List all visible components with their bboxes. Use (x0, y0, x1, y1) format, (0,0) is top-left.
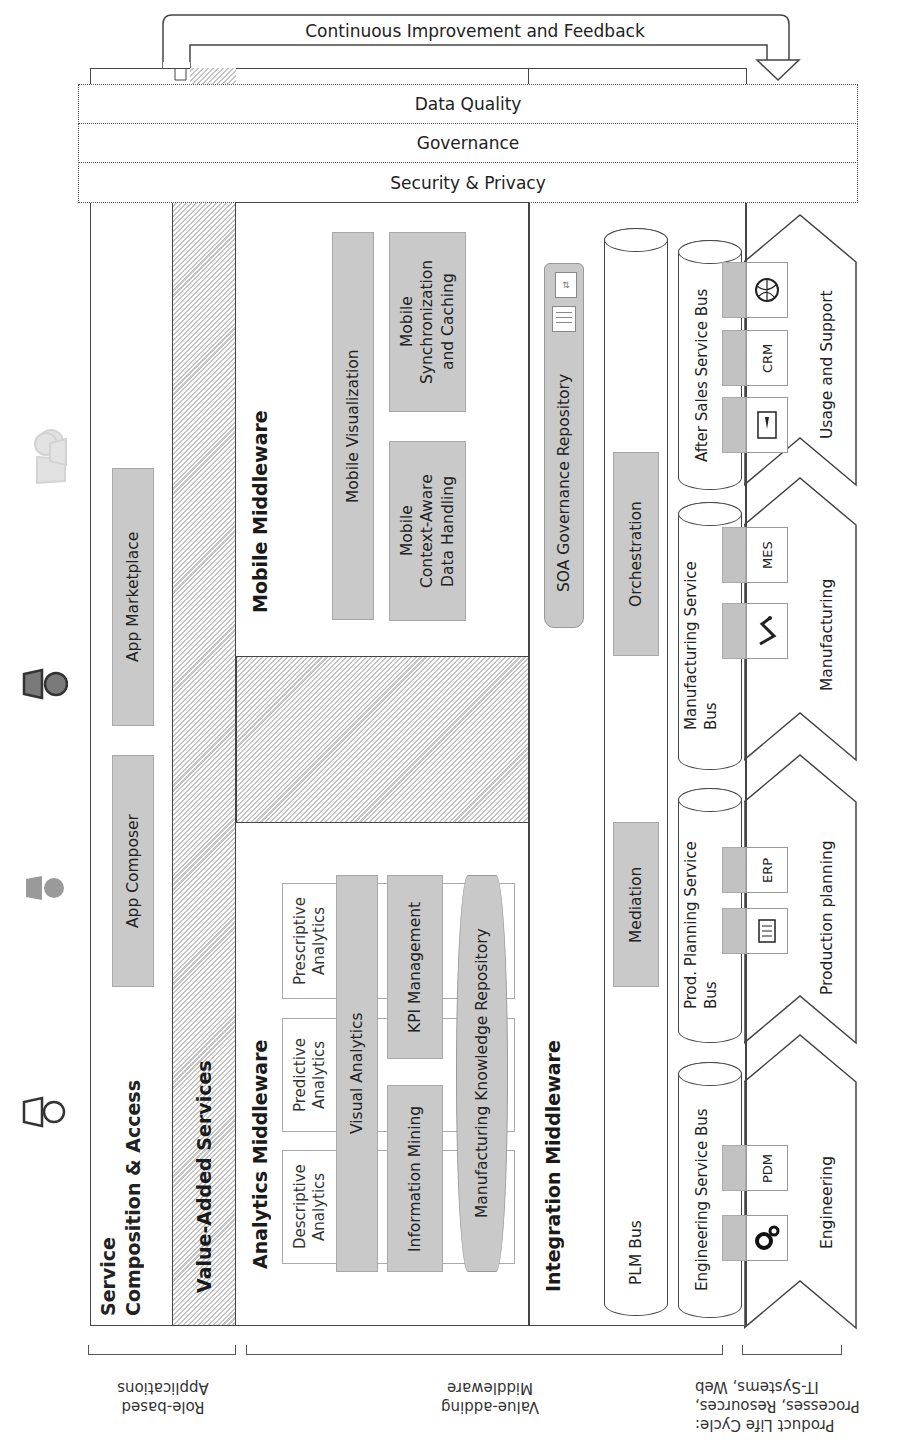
mobile-context-aware-box[interactable]: MobileContext-AwareData Handling (389, 441, 466, 621)
line: Data Handling (439, 476, 457, 587)
connector-arrows (722, 397, 746, 453)
pdm-system-box[interactable]: PDM (746, 1145, 788, 1191)
bus-cap (678, 502, 742, 526)
knowledge-repository-cylinder[interactable]: Manufacturing Knowledge Repository (456, 875, 508, 1272)
label-role-based-applications: Role-basedApplications (88, 1378, 238, 1416)
value-added-hatch-top (190, 68, 236, 84)
user-role-medium-icon (22, 866, 66, 910)
kpi-management-box[interactable]: KPI Management (387, 875, 443, 1059)
line: and Caching (439, 274, 457, 371)
line: Mobile (398, 297, 416, 348)
line: Bus (702, 981, 720, 1009)
line: Processes, Resources, (695, 1398, 860, 1416)
phase-production-planning[interactable]: Production planning (810, 805, 844, 1030)
divider (528, 203, 530, 1326)
soa-governance-repository-label: SOA Governance Repository (544, 340, 584, 625)
brace-value-adding (246, 1345, 723, 1355)
crm-system-box[interactable]: CRM (746, 330, 788, 386)
line: Bus (702, 703, 720, 731)
service-composition-title: Service Composition & Access (96, 1080, 166, 1320)
globe-icon[interactable] (746, 262, 788, 318)
line: Mobile (398, 506, 416, 557)
line: Predictive (291, 1038, 309, 1112)
app-marketplace-box[interactable]: App Marketplace (112, 468, 154, 726)
connector-arrows (722, 262, 746, 318)
title-line: Service (97, 1237, 119, 1316)
value-added-hatch-gap (235, 656, 528, 822)
line: Prod. Planning Service (682, 841, 700, 1009)
divider (528, 68, 529, 84)
feedback-loop-label: Continuous Improvement and Feedback (190, 16, 760, 45)
phase-usage-support[interactable]: Usage and Support (810, 265, 844, 465)
line: Descriptive (291, 1165, 309, 1250)
plm-bus-cap (604, 228, 668, 252)
mobile-visualization-box[interactable]: Mobile Visualization (332, 232, 374, 620)
documents-icon (552, 306, 576, 332)
robot-arm-icon[interactable] (746, 603, 788, 659)
label-product-life-cycle: Product Life Cycle:Processes, Resources,… (695, 1378, 865, 1434)
checklist-icon[interactable] (746, 908, 788, 954)
bus-cap (678, 240, 742, 264)
title-line: Composition & Access (122, 1080, 144, 1316)
mes-system-box[interactable]: MES (746, 527, 788, 583)
manual-icon[interactable] (746, 397, 788, 453)
prod-planning-service-bus-label: Prod. Planning ServiceBus (682, 815, 726, 1035)
mediation-box[interactable]: Mediation (613, 822, 659, 987)
after-sales-service-bus-label: After Sales Service Bus (684, 266, 720, 484)
line: Analytics (310, 907, 328, 975)
label-value-adding-middleware: Value-addingMiddleware (400, 1378, 580, 1416)
line: IT-Systems, Web (695, 1379, 819, 1397)
user-role-outline-icon (20, 1088, 68, 1136)
user-role-light-icon (24, 430, 68, 474)
engineering-service-bus-label: Engineering Service Bus (684, 1090, 720, 1310)
line: Product Life Cycle: (695, 1416, 835, 1434)
line: Middleware (447, 1379, 533, 1397)
line: Context-Aware (418, 474, 436, 588)
line: Analytics (310, 1173, 328, 1241)
mobile-middleware-title: Mobile Middleware (240, 410, 280, 650)
line: Analytics (310, 1041, 328, 1109)
descriptive-analytics-label: DescriptiveAnalytics (282, 1150, 338, 1264)
brace-role-based (88, 1345, 236, 1355)
connector-arrows (722, 1145, 746, 1191)
erp-system-box[interactable]: ERP (746, 847, 788, 893)
manufacturing-service-bus-label: Manufacturing ServiceBus (682, 530, 726, 762)
analytics-middleware-title: Analytics Middleware (240, 1040, 280, 1320)
app-composer-box[interactable]: App Composer (112, 755, 154, 987)
plm-bus-cylinder[interactable] (604, 228, 668, 1316)
visual-analytics-box[interactable]: Visual Analytics (336, 875, 378, 1272)
band-data-quality: Data Quality (78, 84, 858, 124)
band-governance: Governance (78, 123, 858, 163)
plm-bus-label: PLM Bus (612, 1220, 660, 1310)
connector-arrows (722, 908, 746, 954)
value-added-services-title: Value-Added Services (176, 1060, 232, 1320)
connector-arrows (722, 527, 746, 583)
connector-arrows (722, 1215, 746, 1261)
information-mining-box[interactable]: Information Mining (387, 1085, 443, 1272)
line: Value-adding (441, 1398, 539, 1416)
bus-cap (678, 788, 742, 812)
phase-engineering[interactable]: Engineering (810, 1090, 844, 1315)
gears-icon[interactable] (746, 1215, 788, 1261)
user-role-dark-icon (20, 660, 68, 708)
line: Synchronization (418, 260, 436, 384)
orchestration-box[interactable]: Orchestration (613, 452, 659, 656)
line: Prescriptive (291, 897, 309, 985)
mobile-synchronization-box[interactable]: MobileSynchronizationand Caching (389, 232, 466, 412)
line: Applications (117, 1379, 209, 1397)
line: Manufacturing Service (682, 562, 700, 731)
exchange-arrows-icon: ⇅ (555, 272, 577, 298)
connector-arrows (722, 847, 746, 893)
phase-manufacturing[interactable]: Manufacturing (810, 530, 844, 740)
connector-arrows (722, 603, 746, 659)
prescriptive-analytics-label: PrescriptiveAnalytics (282, 883, 338, 999)
bus-cap (678, 1062, 742, 1086)
integration-middleware-title: Integration Middleware (533, 1040, 573, 1320)
predictive-analytics-label: PredictiveAnalytics (282, 1018, 338, 1132)
band-security-privacy: Security & Privacy (78, 162, 858, 203)
line: Role-based (122, 1398, 205, 1416)
brace-product-life-cycle (742, 1345, 842, 1355)
connector-arrows (722, 330, 746, 386)
